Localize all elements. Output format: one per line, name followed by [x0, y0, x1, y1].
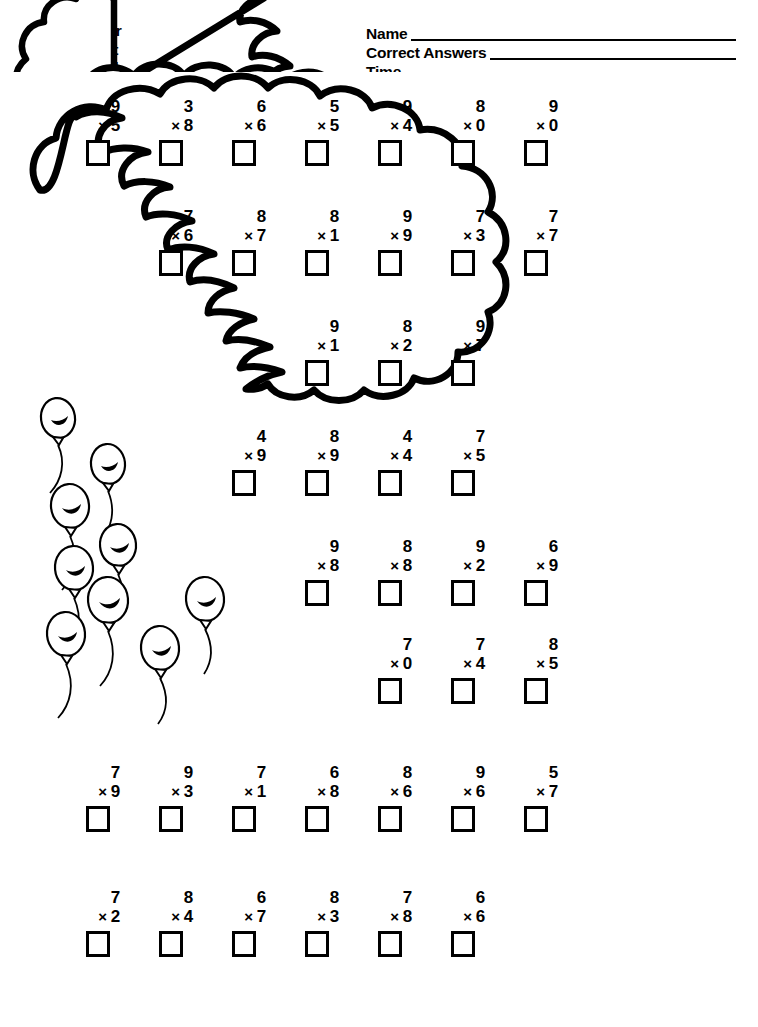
multiplicand: 8	[291, 208, 353, 227]
problem: 9×3	[145, 764, 207, 832]
answer-box[interactable]	[524, 806, 548, 832]
multiply-icon: ×	[463, 557, 472, 574]
answer-box[interactable]	[378, 678, 402, 704]
multiplier: 0	[549, 116, 558, 135]
multiply-icon: ×	[463, 447, 472, 464]
multiplier: 6	[257, 116, 266, 135]
answer-box[interactable]	[232, 140, 256, 166]
multiplicand: 6	[291, 764, 353, 783]
answer-box[interactable]	[524, 580, 548, 606]
problem: 7×3	[437, 208, 499, 276]
answer-box[interactable]	[305, 470, 329, 496]
answer-box[interactable]	[305, 806, 329, 832]
multiplier: 9	[549, 556, 558, 575]
answer-box[interactable]	[305, 140, 329, 166]
multiply-icon: ×	[463, 117, 472, 134]
multiplicand: 4	[218, 428, 280, 447]
multiply-icon: ×	[317, 337, 326, 354]
multiply-icon: ×	[317, 117, 326, 134]
multiplicand: 8	[218, 208, 280, 227]
problem: 6×6	[437, 889, 499, 957]
multiplier: 1	[257, 782, 266, 801]
answer-box[interactable]	[451, 580, 475, 606]
answer-box[interactable]	[524, 678, 548, 704]
multiplier: 8	[403, 907, 412, 926]
answer-box[interactable]	[378, 580, 402, 606]
multiplier: 2	[476, 556, 485, 575]
answer-box[interactable]	[305, 580, 329, 606]
answer-box[interactable]	[451, 470, 475, 496]
answer-box[interactable]	[232, 931, 256, 957]
answer-box[interactable]	[305, 250, 329, 276]
multiplier: 8	[184, 116, 193, 135]
multiplier-line: ×2	[72, 908, 134, 931]
problem: 6×6	[218, 98, 280, 166]
multiplicand: 7	[510, 208, 572, 227]
multiplier-line: ×1	[291, 227, 353, 250]
answer-box[interactable]	[159, 140, 183, 166]
answer-box[interactable]	[378, 931, 402, 957]
answer-box[interactable]	[451, 678, 475, 704]
multiplicand: 6	[218, 889, 280, 908]
multiplicand: 6	[437, 889, 499, 908]
multiplier-line: ×8	[291, 783, 353, 806]
answer-box[interactable]	[232, 806, 256, 832]
answer-box[interactable]	[159, 250, 183, 276]
multiply-icon: ×	[463, 337, 472, 354]
answer-box[interactable]	[232, 250, 256, 276]
multiply-icon: ×	[390, 337, 399, 354]
answer-box[interactable]	[159, 806, 183, 832]
answer-box[interactable]	[86, 806, 110, 832]
problem: 9×9	[364, 208, 426, 276]
answer-box[interactable]	[524, 140, 548, 166]
answer-box[interactable]	[451, 360, 475, 386]
problem: 9×1	[291, 318, 353, 386]
answer-box[interactable]	[524, 250, 548, 276]
problem: 8×8	[364, 538, 426, 606]
answer-box[interactable]	[451, 806, 475, 832]
multiply-icon: ×	[317, 227, 326, 244]
multiplicand: 5	[291, 98, 353, 117]
problem: 5×7	[510, 764, 572, 832]
multiplicand: 9	[291, 538, 353, 557]
multiplicand: 7	[145, 208, 207, 227]
answer-box[interactable]	[159, 931, 183, 957]
multiplier-line: ×9	[218, 447, 280, 470]
multiplicand: 5	[510, 764, 572, 783]
multiply-icon: ×	[390, 655, 399, 672]
multiplier: 4	[476, 654, 485, 673]
problem: 8×2	[364, 318, 426, 386]
multiplier: 0	[476, 116, 485, 135]
answer-box[interactable]	[305, 360, 329, 386]
multiplier-line: ×0	[364, 655, 426, 678]
problem: 8×7	[218, 208, 280, 276]
multiply-icon: ×	[171, 227, 180, 244]
multiplier: 7	[257, 226, 266, 245]
multiplier-line: ×5	[437, 447, 499, 470]
multiplicand: 9	[437, 538, 499, 557]
multiplier-line: ×5	[291, 117, 353, 140]
answer-box[interactable]	[451, 250, 475, 276]
multiplicand: 8	[364, 318, 426, 337]
multiplier-line: ×9	[364, 227, 426, 250]
answer-box[interactable]	[86, 140, 110, 166]
answer-box[interactable]	[86, 931, 110, 957]
multiplicand: 9	[437, 318, 499, 337]
answer-box[interactable]	[378, 360, 402, 386]
multiply-icon: ×	[536, 557, 545, 574]
multiply-icon: ×	[244, 908, 253, 925]
answer-box[interactable]	[451, 140, 475, 166]
multiplier-line: ×8	[364, 557, 426, 580]
multiply-icon: ×	[390, 447, 399, 464]
multiplier-line: ×5	[510, 655, 572, 678]
multiplier-line: ×4	[145, 908, 207, 931]
answer-box[interactable]	[305, 931, 329, 957]
answer-box[interactable]	[378, 470, 402, 496]
multiply-icon: ×	[171, 117, 180, 134]
answer-box[interactable]	[451, 931, 475, 957]
answer-box[interactable]	[378, 140, 402, 166]
multiplier: 8	[330, 556, 339, 575]
answer-box[interactable]	[378, 806, 402, 832]
answer-box[interactable]	[378, 250, 402, 276]
answer-box[interactable]	[232, 470, 256, 496]
